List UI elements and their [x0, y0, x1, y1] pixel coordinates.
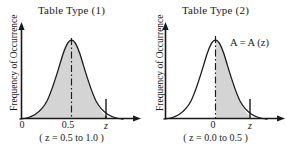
- x-tick-label-z: z: [242, 120, 258, 131]
- x-tick-label-center: 0.5: [56, 119, 80, 130]
- y-axis-arrowhead: [18, 22, 24, 30]
- x-axis-arrowhead: [277, 115, 285, 121]
- y-axis-arrowhead: [162, 22, 168, 30]
- x-tick-label-z: z: [98, 120, 114, 131]
- figure-panel-table-type-2: Table Type (2) Frequency of Occurrence A…: [144, 0, 287, 147]
- panel-caption: ( z = 0.5 to 1.0 ): [0, 132, 143, 143]
- x-tick-label-origin: 0: [205, 119, 221, 130]
- x-tick-label-origin: 0: [14, 119, 30, 130]
- panel-caption: ( z = 0.0 to 0.5 ): [144, 132, 287, 143]
- figure-panel-table-type-1: Table Type (1) Frequency of Occurrence 0…: [0, 0, 143, 147]
- shaded-area-region: [216, 40, 251, 118]
- shaded-area-region: [24, 40, 106, 118]
- area-annotation-label: A = A (z): [230, 37, 269, 48]
- x-axis-arrowhead: [133, 115, 141, 121]
